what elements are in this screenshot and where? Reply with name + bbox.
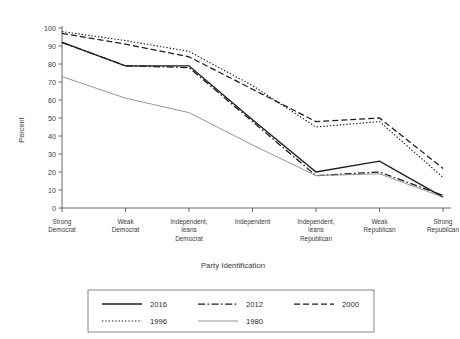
y-tick-label: 20	[48, 168, 56, 177]
x-category-label: Democrat	[112, 226, 140, 233]
y-tick-label: 10	[48, 186, 56, 195]
x-category-label: Republican	[427, 226, 459, 234]
y-tick-label: 30	[48, 150, 56, 159]
x-category-label: Democrat	[48, 226, 76, 233]
x-category-label: Independent,	[170, 218, 208, 226]
y-tick-label: 80	[48, 60, 56, 69]
x-category-label: Strong	[434, 218, 453, 226]
chart-legend: 20162012200019961980	[88, 290, 374, 332]
y-tick-label: 40	[48, 132, 56, 141]
x-category-label: Weak	[371, 218, 388, 225]
legend-label-2012: 2012	[246, 300, 263, 309]
legend-border	[88, 290, 374, 332]
x-category-label: Independent	[235, 218, 271, 226]
x-category-labels: StrongDemocratWeakDemocratIndependent,le…	[48, 218, 459, 243]
series-line-1996	[62, 32, 443, 178]
x-axis	[62, 208, 451, 212]
y-tick-label: 70	[48, 78, 56, 87]
x-category-label: leans	[308, 226, 323, 233]
y-tick-label: 100	[44, 24, 56, 33]
x-category-label: Strong	[53, 218, 72, 226]
x-axis-title: Party Identification	[201, 261, 265, 270]
legend-label-1980: 1980	[246, 317, 263, 326]
x-category-label: Republican	[300, 235, 332, 243]
y-axis-title: Percent	[17, 117, 26, 142]
x-category-label: Independent,	[297, 218, 335, 226]
series-line-2012	[62, 42, 443, 195]
x-category-label: Republican	[364, 226, 396, 234]
x-category-label: Democrat	[175, 235, 203, 242]
data-series-group	[62, 32, 443, 198]
y-tick-label: 0	[52, 204, 56, 213]
legend-label-2000: 2000	[342, 300, 359, 309]
legend-label-2016: 2016	[150, 300, 167, 309]
x-category-label: leans	[181, 226, 196, 233]
series-line-1980	[62, 77, 443, 198]
y-tick-label: 90	[48, 42, 56, 51]
legend-label-1996: 1996	[150, 317, 167, 326]
y-axis: 0102030405060708090100	[44, 24, 62, 213]
y-tick-label: 50	[48, 114, 56, 123]
x-category-label: Weak	[117, 218, 134, 225]
chart-container: 0102030405060708090100 StrongDemocratWea…	[0, 0, 460, 339]
y-tick-label: 60	[48, 96, 56, 105]
party-identification-line-chart: 0102030405060708090100 StrongDemocratWea…	[0, 0, 460, 339]
series-line-2000	[62, 33, 443, 168]
